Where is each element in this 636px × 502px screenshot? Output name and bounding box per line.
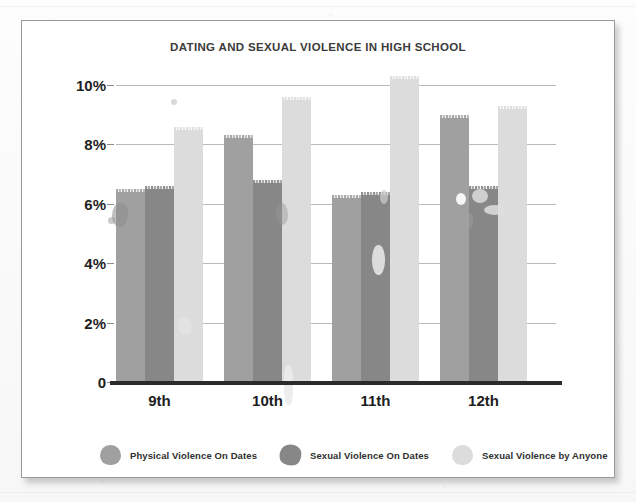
bar[interactable]: [469, 189, 498, 382]
bar[interactable]: [116, 192, 145, 382]
y-axis-tick-label: 4%: [46, 255, 106, 272]
bar[interactable]: [174, 130, 203, 382]
scan-artifact-line-top: [0, 6, 636, 7]
legend-swatch-icon: [278, 443, 302, 466]
y-axis-tick: [107, 204, 114, 205]
x-axis-tick-label: 11th: [331, 392, 421, 409]
legend-label: Physical Violence On Dates: [130, 450, 257, 461]
legend-swatch-icon: [452, 445, 473, 465]
bar-group-11th: [332, 85, 419, 382]
bar[interactable]: [440, 118, 469, 382]
legend-label: Sexual Violence On Dates: [310, 450, 429, 461]
plot-area: [116, 85, 556, 382]
bar[interactable]: [390, 79, 419, 382]
legend-label: Sexual Violence by Anyone: [482, 450, 608, 461]
bar[interactable]: [361, 195, 390, 382]
legend-swatch-icon: [100, 445, 121, 465]
y-axis-tick-label: 6%: [46, 195, 106, 212]
x-axis-tick-label: 10th: [223, 392, 313, 409]
bar-group-10th: [224, 85, 311, 382]
x-axis-baseline: [110, 381, 562, 385]
y-axis-tick: [107, 323, 114, 324]
y-axis-tick: [107, 144, 114, 145]
x-axis-tick-label: 12th: [439, 392, 529, 409]
bar[interactable]: [224, 138, 253, 382]
bar[interactable]: [282, 100, 311, 382]
y-axis-tick: [107, 85, 114, 86]
y-axis-tick-label: 0: [46, 374, 106, 391]
bar[interactable]: [145, 189, 174, 382]
legend-item[interactable]: Physical Violence On Dates: [100, 442, 257, 468]
bar[interactable]: [332, 198, 361, 382]
bar[interactable]: [498, 109, 527, 382]
y-axis-tick-label: 10%: [46, 77, 106, 94]
legend-item[interactable]: Sexual Violence by Anyone: [452, 442, 608, 468]
x-axis-tick-label: 9th: [115, 392, 205, 409]
chart-legend: Physical Violence On DatesSexual Violenc…: [100, 442, 570, 468]
bar[interactable]: [253, 183, 282, 382]
y-axis-tick-label: 8%: [46, 136, 106, 153]
scan-artifact-line-bottom: [0, 492, 636, 493]
chart-title: DATING AND SEXUAL VIOLENCE IN HIGH SCHOO…: [22, 41, 614, 53]
y-axis-tick: [107, 263, 114, 264]
y-axis-tick-label: 2%: [46, 314, 106, 331]
y-axis-tick-labels: 02%4%6%8%10%: [46, 85, 106, 382]
bar-group-9th: [116, 85, 203, 382]
legend-item[interactable]: Sexual Violence On Dates: [280, 442, 429, 468]
bar-group-12th: [440, 85, 527, 382]
